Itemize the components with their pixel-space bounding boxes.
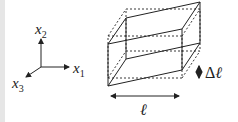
delta-label: Δℓ (205, 64, 222, 81)
coordinate-axes (26, 39, 69, 77)
x1-label: x1 (72, 60, 85, 79)
x3-axis-arrow (26, 67, 41, 77)
length-label: ℓ (140, 101, 147, 118)
undeformed-block (108, 9, 200, 78)
shear-diagram: x2 x1 x3 ℓ (0, 0, 238, 122)
x3-label: x3 (11, 75, 24, 94)
x2-label: x2 (34, 21, 47, 40)
